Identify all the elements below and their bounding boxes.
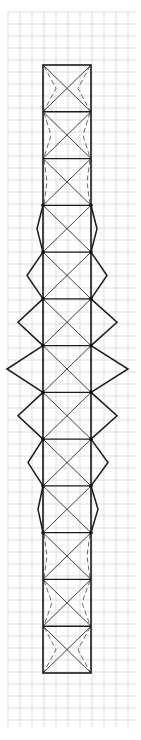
vertex-dot	[89, 437, 93, 441]
fold-line-left	[44, 627, 56, 672]
wing-left	[37, 205, 43, 252]
vertex-dot	[89, 484, 93, 488]
vertex-dot	[89, 297, 93, 301]
wing-left	[18, 299, 43, 346]
vertex-dot	[41, 297, 45, 301]
vertex-dot	[41, 484, 45, 488]
fold-line-right	[87, 160, 90, 205]
fold-line-left	[44, 534, 47, 579]
fold-line-right	[87, 534, 90, 579]
vertex-dot	[89, 344, 93, 348]
vertex-dot	[41, 437, 45, 441]
graph-paper-grid	[8, 12, 136, 727]
wing-right	[91, 346, 128, 393]
wing-left	[7, 346, 43, 393]
vertex-dot	[41, 344, 45, 348]
vertex-dot	[41, 531, 45, 535]
fold-line-left	[44, 113, 51, 158]
vertex-dot	[89, 250, 93, 254]
fold-pattern-sketch	[0, 0, 141, 740]
vertex-dot	[89, 531, 93, 535]
wing-left	[28, 439, 43, 486]
vertex-dot	[41, 391, 45, 395]
vertex-dot	[41, 250, 45, 254]
fold-line-right	[83, 113, 90, 158]
fold-line-left	[44, 66, 56, 111]
grid-paper-drawing	[0, 0, 141, 740]
wing-left	[27, 252, 43, 299]
wing-right	[91, 439, 108, 486]
vertex-dot	[41, 204, 45, 208]
vertex-dot	[89, 391, 93, 395]
vertex-dot	[89, 204, 93, 208]
fold-line-left	[44, 160, 47, 205]
wing-right	[91, 252, 107, 299]
